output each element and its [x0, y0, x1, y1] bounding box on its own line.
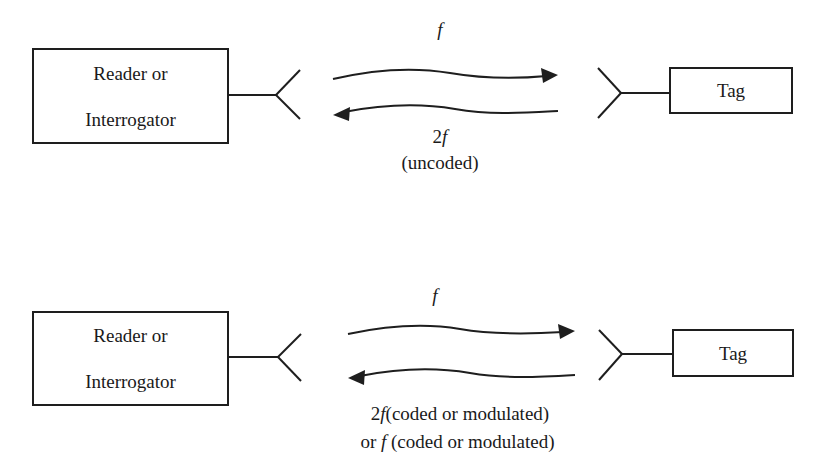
- return-note-line1: (coded or modulated): [386, 403, 550, 424]
- tag-box-top: Tag: [669, 67, 793, 114]
- tag-antenna-top: [598, 68, 669, 118]
- reader-antenna-bottom: [228, 334, 301, 381]
- forward-signal-arrow-top: [333, 68, 558, 83]
- tag-antenna-bottom: [599, 330, 672, 380]
- tag-label-bottom: Tag: [719, 342, 747, 365]
- tag-label-top: Tag: [717, 79, 745, 102]
- reader-label-line2: Interrogator: [85, 370, 176, 393]
- reader-label-line1: Reader or: [85, 62, 176, 85]
- forward-signal-label-top: f: [425, 19, 455, 41]
- reader-label-top: Reader or Interrogator: [85, 39, 176, 154]
- return-signal-note-top: (uncoded): [380, 152, 500, 174]
- tag-box-bottom: Tag: [672, 329, 794, 377]
- reader-label-bottom: Reader or Interrogator: [85, 301, 176, 416]
- reader-label-line2: Interrogator: [85, 108, 176, 131]
- reader-antenna-top: [228, 70, 300, 119]
- return-signal-arrow-top: [333, 105, 558, 121]
- return-signal-label-line2-bottom: or f (coded or modulated): [320, 431, 595, 453]
- return-signal-freq-top: 2f: [415, 126, 465, 148]
- return-note-line2: (coded or modulated): [386, 431, 554, 452]
- forward-signal-label-bottom: f: [420, 285, 450, 307]
- return-prefix-line2: or: [360, 431, 381, 452]
- forward-signal-arrow-bottom: [348, 324, 575, 339]
- reader-box-bottom: Reader or Interrogator: [32, 311, 229, 406]
- reader-box-top: Reader or Interrogator: [32, 48, 229, 144]
- return-signal-arrow-bottom: [348, 369, 575, 385]
- return-signal-label-line1-bottom: 2f(coded or modulated): [330, 403, 590, 425]
- reader-label-line1: Reader or: [85, 324, 176, 347]
